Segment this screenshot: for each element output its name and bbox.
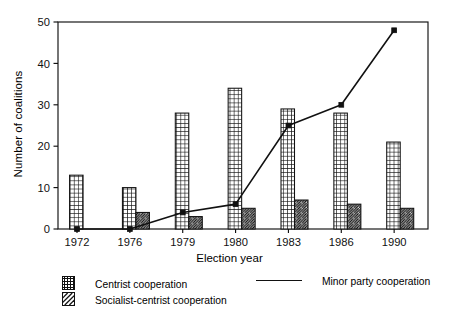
y-tick-label: 20 bbox=[38, 140, 50, 152]
x-tick-label: 1990 bbox=[382, 236, 407, 248]
x-axis-title: Election year bbox=[0, 252, 459, 264]
legend-label-socialist: Socialist-centrist cooperation bbox=[95, 295, 227, 306]
bar-socialist bbox=[242, 208, 256, 229]
y-tick-label: 0 bbox=[44, 223, 50, 235]
bar-socialist bbox=[189, 217, 203, 229]
socialist-swatch-icon bbox=[62, 292, 75, 306]
line-marker bbox=[127, 227, 132, 232]
y-tick-label: 50 bbox=[38, 16, 50, 28]
legend-item-minor: Minor party cooperation bbox=[256, 276, 430, 287]
chart-figure: 010203040501972197619791980198319861990 … bbox=[0, 0, 459, 323]
y-axis: 01020304050 bbox=[38, 16, 58, 235]
x-tick-label: 1976 bbox=[117, 236, 142, 248]
minor-line-icon bbox=[256, 280, 302, 281]
legend-label-centrist: Centrist cooperation bbox=[95, 279, 187, 290]
x-axis: 1972197619791980198319861990 bbox=[65, 229, 407, 248]
x-tick-label: 1979 bbox=[170, 236, 195, 248]
bar-socialist bbox=[347, 204, 361, 229]
legend-item-socialist: Socialist-centrist cooperation bbox=[62, 292, 227, 306]
y-tick-label: 30 bbox=[38, 99, 50, 111]
x-tick-label: 1980 bbox=[223, 236, 248, 248]
line-marker bbox=[75, 227, 80, 232]
x-tick-label: 1986 bbox=[329, 236, 354, 248]
coalitions-chart-svg: 010203040501972197619791980198319861990 bbox=[0, 0, 459, 270]
bar-socialist bbox=[400, 208, 414, 229]
line-marker bbox=[233, 202, 238, 207]
chart-legend: Centrist cooperation Socialist-centrist … bbox=[0, 276, 459, 323]
y-axis-title: Number of coalitions bbox=[12, 44, 24, 204]
bar-socialist bbox=[295, 200, 309, 229]
bar-centrist bbox=[387, 142, 401, 229]
plot-area-wrapper: 010203040501972197619791980198319861990 … bbox=[0, 0, 459, 270]
bar-centrist bbox=[228, 88, 242, 229]
line-marker bbox=[286, 123, 291, 128]
plot-frame bbox=[58, 22, 428, 229]
legend-item-centrist: Centrist cooperation bbox=[62, 276, 187, 290]
bar-centrist bbox=[70, 175, 84, 229]
centrist-swatch-icon bbox=[62, 276, 75, 290]
line-marker bbox=[339, 102, 344, 107]
line-marker bbox=[180, 210, 185, 215]
x-tick-label: 1972 bbox=[65, 236, 90, 248]
bar-centrist bbox=[334, 113, 348, 229]
bar-centrist bbox=[122, 188, 136, 229]
x-tick-label: 1983 bbox=[276, 236, 301, 248]
bars-group bbox=[70, 88, 414, 229]
legend-label-minor: Minor party cooperation bbox=[322, 276, 430, 287]
line-marker bbox=[392, 28, 397, 33]
y-tick-label: 10 bbox=[38, 182, 50, 194]
y-tick-label: 40 bbox=[38, 58, 50, 70]
